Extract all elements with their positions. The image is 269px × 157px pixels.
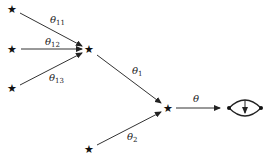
- edge-theta-1: [97, 55, 161, 103]
- tree-diagram: ★ ★ ★ ★ ★ ★ θ11 θ12 θ13 θ1 θ2 θ: [0, 0, 269, 157]
- label-theta-1: θ1: [132, 65, 143, 78]
- leaf-node-3: ★: [7, 82, 17, 95]
- label-theta: θ: [193, 93, 199, 104]
- leaf-node-2: ★: [7, 43, 17, 56]
- label-theta-11: θ11: [50, 14, 65, 27]
- label-theta-2: θ2: [127, 131, 138, 144]
- loop-graph-icon: [227, 100, 263, 116]
- label-theta-12: θ12: [45, 36, 60, 49]
- lower-node: ★: [84, 143, 94, 156]
- label-theta-13: θ13: [49, 72, 64, 85]
- leaf-node-1: ★: [7, 3, 17, 16]
- middle-node: ★: [84, 43, 94, 56]
- root-node: ★: [163, 102, 173, 115]
